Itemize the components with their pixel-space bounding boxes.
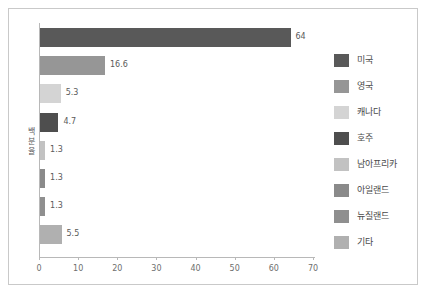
x-tick-label: 60 <box>269 264 279 274</box>
legend-swatch-icon <box>334 236 349 249</box>
legend-swatch-icon <box>334 80 349 93</box>
bar[interactable] <box>40 169 45 188</box>
bar-row[interactable]: 64 <box>40 28 316 47</box>
bar[interactable] <box>40 84 61 103</box>
legend-swatch-icon <box>334 106 349 119</box>
x-tick-mark <box>235 257 236 260</box>
bar-row[interactable]: 5.3 <box>40 84 316 103</box>
x-tick-mark <box>78 257 79 260</box>
bar[interactable] <box>40 56 105 75</box>
legend-swatch-icon <box>334 132 349 145</box>
bar-row[interactable]: 4.7 <box>40 113 316 132</box>
legend-swatch-icon <box>334 184 349 197</box>
bar-value-label: 1.3 <box>50 201 63 211</box>
legend-label: 캐나다 <box>357 106 381 119</box>
x-tick-label: 30 <box>151 264 161 274</box>
legend-label: 뉴질랜드 <box>357 210 389 223</box>
plot-area: 010203040506070 6416.65.34.71.31.31.35.5 <box>39 23 315 257</box>
x-tick-label: 0 <box>36 264 41 274</box>
bar-value-label: 64 <box>296 32 306 42</box>
x-tick-label: 70 <box>308 264 318 274</box>
bar-row[interactable]: 5.5 <box>40 225 316 244</box>
legend-label: 미국 <box>357 54 373 67</box>
legend-label: 호주 <box>357 132 373 145</box>
bar[interactable] <box>40 225 62 244</box>
chart-frame: 백분율 010203040506070 6416.65.34.71.31.31.… <box>8 8 418 285</box>
x-tick-label: 40 <box>190 264 200 274</box>
bar-row[interactable]: 1.3 <box>40 141 316 160</box>
x-tick-mark <box>274 257 275 260</box>
bar-row[interactable]: 1.3 <box>40 169 316 188</box>
legend-swatch-icon <box>334 158 349 171</box>
y-axis-title: 백분율 <box>25 127 37 157</box>
x-tick-mark <box>313 257 314 260</box>
bar-value-label: 1.3 <box>50 145 63 155</box>
x-tick-label: 10 <box>73 264 83 274</box>
bar-value-label: 5.3 <box>66 88 79 98</box>
bar[interactable] <box>40 141 45 160</box>
bar-row[interactable]: 16.6 <box>40 56 316 75</box>
x-tick-mark <box>39 257 40 260</box>
bar-row[interactable]: 1.3 <box>40 197 316 216</box>
legend-label: 아일랜드 <box>357 184 389 197</box>
x-tick-mark <box>117 257 118 260</box>
x-tick-label: 20 <box>112 264 122 274</box>
legend-label: 기타 <box>357 236 373 249</box>
x-tick-mark <box>196 257 197 260</box>
bar-value-label: 4.7 <box>63 117 76 127</box>
bar[interactable] <box>40 197 45 216</box>
bar-value-label: 5.5 <box>67 229 80 239</box>
bar[interactable] <box>40 28 291 47</box>
legend-swatch-icon <box>334 54 349 67</box>
legend-label: 남아프리카 <box>357 158 397 171</box>
bar[interactable] <box>40 113 58 132</box>
x-tick-label: 50 <box>230 264 240 274</box>
legend-label: 영국 <box>357 80 373 93</box>
bar-value-label: 1.3 <box>50 173 63 183</box>
bar-value-label: 16.6 <box>110 60 128 70</box>
legend-swatch-icon <box>334 210 349 223</box>
x-tick-mark <box>156 257 157 260</box>
